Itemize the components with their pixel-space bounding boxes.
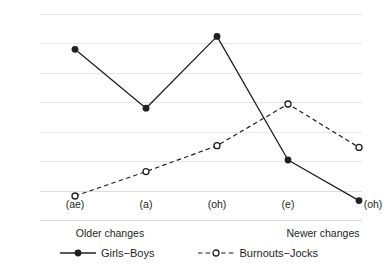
legend-label-girls-boys: Girls−Boys <box>101 248 155 259</box>
data-point <box>285 101 291 107</box>
x-axis-tick-ae: (ae) <box>45 199 105 210</box>
data-point <box>72 46 79 53</box>
group-label-newer: Newer changes <box>263 228 383 239</box>
data-point <box>214 33 221 40</box>
data-point <box>143 169 149 175</box>
series-burnouts-jocks-line <box>75 104 359 196</box>
x-axis-tick-a: (a) <box>116 199 176 210</box>
data-point <box>214 143 220 149</box>
data-point <box>356 144 362 150</box>
group-label-older: Older changes <box>50 228 170 239</box>
gridline-neg5 <box>40 220 362 221</box>
chart-legend: Girls−Boys Burnouts−Jocks <box>0 243 378 263</box>
dashed-line-open-circle-icon <box>198 248 234 258</box>
x-axis-tick-oh-1: (oh) <box>187 199 247 210</box>
data-point <box>143 105 150 112</box>
solid-line-filled-circle-icon <box>60 248 96 258</box>
plot-area: (ae) (a) (oh) (e) (oh) Older changes New… <box>40 14 362 220</box>
series-girls-boys-line <box>75 36 359 200</box>
legend-label-burnouts-jocks: Burnouts−Jocks <box>239 248 318 259</box>
data-point <box>285 157 292 164</box>
series-layer <box>40 14 362 220</box>
series-girls-boys <box>72 33 363 204</box>
x-axis-tick-oh-2: (oh) <box>343 199 387 210</box>
legend-item-girls-boys[interactable]: Girls−Boys <box>60 248 155 259</box>
legend-item-burnouts-jocks[interactable]: Burnouts−Jocks <box>198 248 318 259</box>
series-burnouts-jocks <box>72 101 362 199</box>
x-axis-tick-e: (e) <box>258 199 318 210</box>
